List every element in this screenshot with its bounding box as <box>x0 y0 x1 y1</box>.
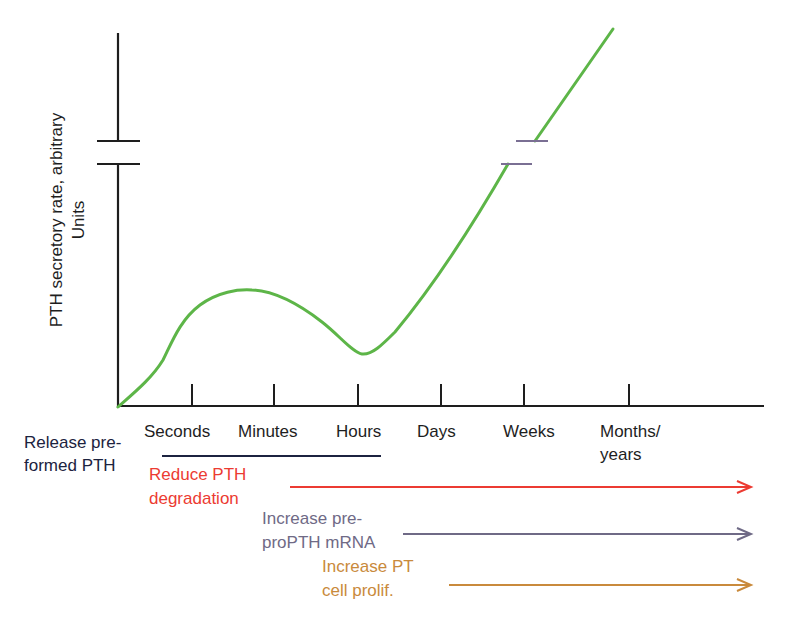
reduce-degradation-arrow <box>290 481 751 493</box>
pth-curve-lower <box>118 164 508 407</box>
prolif-label-line2: cell prolif. <box>322 580 394 601</box>
tick-label-years: years <box>600 444 642 465</box>
tick-label-minutes: Minutes <box>238 421 298 442</box>
tick-label-months: Months/ <box>600 421 660 442</box>
reduce-label-line1: Reduce PTH <box>149 464 246 485</box>
reduce-label-line2: degradation <box>149 488 239 509</box>
mrna-label-line2: proPTH mRNA <box>262 532 375 553</box>
tick-label-seconds: Seconds <box>144 421 210 442</box>
increase-prolif-arrow <box>449 579 751 591</box>
tick-label-hours: Hours <box>336 421 381 442</box>
release-label-line2: formed PTH <box>24 455 116 476</box>
pth-curve-upper <box>535 29 613 141</box>
increase-mrna-arrow <box>403 528 751 540</box>
y-axis-label-line2: Units <box>68 113 90 327</box>
release-label-line1: Release pre- <box>24 432 121 453</box>
mrna-label-line1: Increase pre- <box>262 508 362 529</box>
chart-canvas <box>0 0 792 629</box>
x-axis-ticks <box>192 384 629 406</box>
y-axis-label-line1: PTH secretory rate, arbitrary <box>46 113 68 327</box>
tick-label-days: Days <box>417 421 456 442</box>
tick-label-weeks: Weeks <box>503 421 555 442</box>
prolif-label-line1: Increase PT <box>322 556 414 577</box>
